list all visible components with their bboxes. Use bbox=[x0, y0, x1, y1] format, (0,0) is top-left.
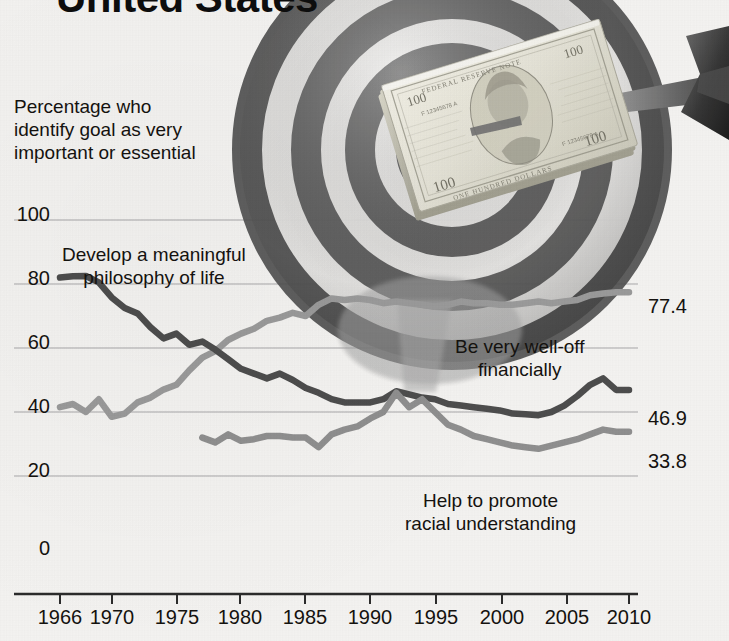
x-tick-1970: 1970 bbox=[82, 606, 142, 629]
annotation-racial: Help to promote racial understanding bbox=[405, 489, 576, 535]
y-tick-20: 20 bbox=[8, 459, 50, 482]
x-tick-2010: 2010 bbox=[599, 606, 659, 629]
annotation-philosophy: Develop a meaningful philosophy of life bbox=[62, 243, 246, 289]
end-label-wealth: 77.4 bbox=[648, 295, 687, 318]
x-tick-1975: 1975 bbox=[147, 606, 207, 629]
y-tick-100: 100 bbox=[8, 203, 50, 226]
x-axis-ticks bbox=[60, 594, 629, 604]
x-tick-2000: 2000 bbox=[472, 606, 532, 629]
annotation-wealth: Be very well-off financially bbox=[455, 335, 585, 381]
y-tick-60: 60 bbox=[8, 331, 50, 354]
end-label-racial: 33.8 bbox=[648, 450, 687, 473]
y-tick-0: 0 bbox=[8, 537, 50, 560]
x-tick-1990: 1990 bbox=[340, 606, 400, 629]
end-label-philosophy: 46.9 bbox=[648, 407, 687, 430]
y-tick-80: 80 bbox=[8, 267, 50, 290]
x-tick-2005: 2005 bbox=[537, 606, 597, 629]
x-tick-1966: 1966 bbox=[30, 606, 90, 629]
page-title: United States bbox=[56, 0, 318, 22]
y-axis-description: Percentage who identify goal as very imp… bbox=[14, 95, 196, 164]
y-tick-40: 40 bbox=[8, 395, 50, 418]
chart-page: 100 100 100 100 FEDERAL RESERVE NOTE ONE… bbox=[0, 0, 729, 641]
x-tick-1995: 1995 bbox=[406, 606, 466, 629]
x-tick-1980: 1980 bbox=[210, 606, 270, 629]
x-tick-1985: 1985 bbox=[275, 606, 335, 629]
